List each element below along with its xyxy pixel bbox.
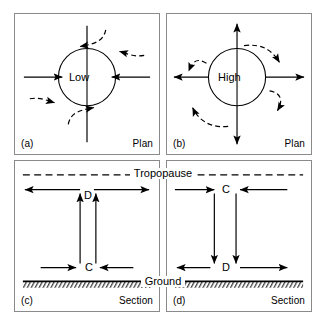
divergence-label-bottom: D [222, 262, 230, 273]
divergence-label-top: D [84, 190, 92, 201]
spiral-arrow-se [270, 91, 281, 111]
figure-convergence-divergence: Low (a) Plan [0, 0, 326, 324]
panel-a-low-plan: Low (a) Plan [14, 13, 160, 155]
panel-d-tag: (d) [173, 296, 186, 306]
spiral-arrow-ne [120, 51, 145, 55]
spiral-arrow-ne [244, 45, 279, 62]
panel-b-view-label: Plan [285, 139, 305, 149]
spiral-arrow-sw [193, 108, 228, 127]
panel-a-view-label: Plan [133, 139, 153, 149]
panel-d-high-section: C D (d) Section [166, 160, 312, 312]
panel-c-low-section: D C (c) Section [14, 160, 160, 312]
spiral-arrow-sw [30, 98, 55, 102]
spiral-arrow-se [68, 108, 94, 125]
panel-d-view-label: Section [271, 296, 305, 306]
panel-a-tag: (a) [21, 139, 34, 149]
panel-a-graphic [15, 14, 159, 154]
convergence-label-top: C [222, 184, 230, 195]
panel-c-graphic [15, 161, 159, 311]
low-pressure-label: Low [69, 72, 89, 83]
ground-hatching [175, 282, 303, 288]
panel-b-tag: (b) [173, 139, 186, 149]
spiral-arrow-nw [80, 30, 106, 47]
convergence-label-bottom: C [85, 262, 93, 273]
panel-c-view-label: Section [119, 296, 153, 306]
panel-d-graphic [167, 161, 311, 311]
panel-c-tag: (c) [21, 296, 33, 306]
ground-hatching [23, 282, 151, 288]
panel-b-graphic [167, 14, 311, 154]
spiral-arrow-nw [189, 61, 207, 72]
high-pressure-label: High [218, 72, 241, 83]
panel-b-high-plan: High (b) Plan [166, 13, 312, 155]
